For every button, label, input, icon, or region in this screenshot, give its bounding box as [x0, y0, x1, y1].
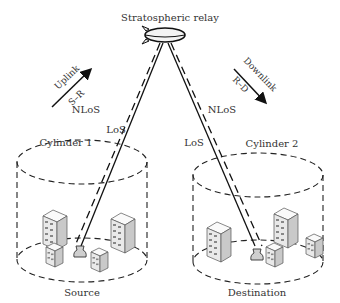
uplink-label: Uplink — [52, 63, 81, 92]
building-icon — [266, 243, 283, 267]
building-icon — [91, 248, 108, 272]
right-los-label: LoS — [184, 137, 204, 148]
downlink-arrow: Downlink R–D — [231, 55, 280, 102]
relay-title: Stratospheric relay — [121, 12, 219, 23]
building-icon — [46, 243, 63, 267]
building-icon — [274, 208, 298, 248]
right-nlos-label: NLoS — [208, 104, 236, 115]
airship-icon — [142, 26, 185, 44]
diagram-canvas: Stratospheric relay Uplink S–R Downlink … — [0, 0, 340, 303]
left-nlos-label: NLoS — [72, 104, 100, 115]
building-icon — [207, 222, 231, 262]
cylinder-2 — [193, 153, 323, 284]
building-icon — [111, 213, 135, 253]
cylinder-1 — [17, 140, 147, 282]
left-los-label: LoS — [106, 124, 126, 135]
uplink-arrow: Uplink S–R — [52, 63, 90, 108]
destination-user-icon — [251, 249, 263, 260]
cylinder-2-label: Cylinder 2 — [246, 138, 299, 149]
downlink-sublabel: R–D — [231, 74, 251, 94]
destination-label: Destination — [228, 287, 287, 298]
source-label: Source — [64, 287, 100, 298]
cylinder-1-label: Cylinder 1 — [40, 137, 93, 148]
source-user-icon — [74, 246, 86, 257]
building-icon — [306, 234, 323, 258]
